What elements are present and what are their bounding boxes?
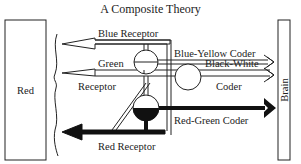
composite-theory-diagram: Red Brain Blue Receptor Green Receptor R… (0, 0, 301, 164)
black-white-coder-label-line1: Black-White (205, 58, 259, 69)
brace (54, 34, 58, 156)
black-white-coder-label-line2: Coder (216, 81, 242, 92)
blue-yellow-node (134, 44, 158, 74)
brain-box: Brain (278, 20, 290, 160)
green-receptor-label-line2: Receptor (78, 81, 116, 92)
green-receptor-label-line1: Green (98, 58, 124, 69)
red-green-coder-label: Red-Green Coder (174, 115, 249, 126)
stimulus-box: Red (5, 20, 46, 160)
stimulus-label: Red (17, 85, 35, 96)
blue-receptor-label: Blue Receptor (98, 28, 159, 39)
black-white-node: Black-White Coder (175, 58, 274, 92)
red-green-coder-arrow: Red-Green Coder (159, 98, 276, 126)
red-receptor-label: Red Receptor (98, 141, 156, 152)
brain-label: Brain (279, 78, 290, 102)
red-green-node (133, 76, 159, 132)
